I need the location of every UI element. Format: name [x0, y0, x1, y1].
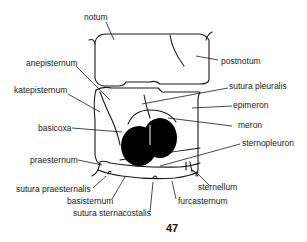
label-sutura-sternacostalis: sutura sternacostalis: [73, 209, 151, 218]
label-basicoxa: basicoxa: [38, 124, 72, 133]
label-sutura-praesternalis: sutura praesternalis: [16, 185, 91, 194]
figure-number: 47: [166, 222, 178, 234]
label-katepisternum: katepisternum: [14, 86, 67, 95]
label-sternopleuron: sternopleuron: [242, 139, 294, 148]
label-furcasternum: furcasternum: [178, 197, 228, 206]
coxa-fill: [121, 118, 177, 166]
label-postnotum: postnotum: [221, 57, 261, 66]
label-sternellum: sternellum: [198, 183, 237, 192]
label-praesternum: praesternum: [30, 156, 78, 165]
label-notum: notum: [84, 13, 108, 22]
notum-plate: [95, 34, 209, 86]
label-meron: meron: [238, 121, 262, 130]
insect-thorax-diagram: notum postnotum anepisternum katepistern…: [0, 0, 307, 242]
label-epimeron: epimeron: [233, 101, 268, 110]
label-basisternum: basisternum: [67, 197, 113, 206]
label-sutura-pleuralis: sutura pleuralis: [229, 82, 287, 91]
label-anepisternum: anepisternum: [26, 59, 78, 68]
